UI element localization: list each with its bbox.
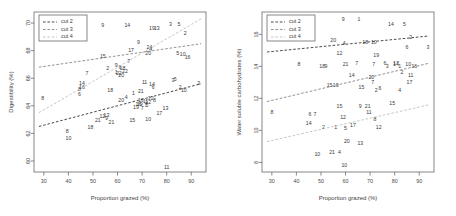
- scatter-figure: 60626466687030405060708090Proportion gra…: [0, 0, 456, 216]
- data-point-label: 14: [124, 22, 130, 28]
- x-tick-label: 30: [41, 178, 47, 184]
- legend-item-label: cut 4: [61, 33, 73, 39]
- data-point-label: 21: [95, 117, 101, 123]
- regression-line: [267, 63, 429, 101]
- data-point-label: 8: [270, 109, 273, 115]
- data-point-label: 5: [174, 76, 177, 82]
- x-tick-label: 30: [269, 178, 275, 184]
- data-point-label: 2: [106, 65, 109, 71]
- data-point-label: 7: [372, 61, 375, 67]
- data-point-label: 14: [306, 120, 312, 126]
- regression-line: [267, 105, 429, 142]
- data-point-label: 2: [375, 87, 378, 93]
- y-tick-label: 12: [253, 95, 259, 101]
- panel-left-canvas: 60626466687030405060708090Proportion gra…: [0, 0, 228, 216]
- data-point-label: 9: [359, 103, 362, 109]
- data-point-label: 21: [365, 103, 371, 109]
- data-point-label: 18: [88, 124, 94, 130]
- y-tick-label: 16: [253, 31, 259, 37]
- y-tick-label: 68: [25, 48, 31, 54]
- data-point-label: 4: [338, 149, 341, 155]
- data-point-label: 9: [115, 62, 118, 68]
- data-point-label: 16: [79, 84, 85, 90]
- legend-item-label: cut 2: [289, 18, 301, 24]
- x-axis-title: Proportion grazed (%): [319, 195, 378, 201]
- legend-item-label: cut 3: [61, 26, 73, 32]
- data-point-label: 18: [362, 39, 368, 45]
- data-point-label: 3: [197, 80, 200, 86]
- data-point-label: 13: [357, 140, 363, 146]
- data-point-label: 5: [403, 21, 406, 27]
- data-point-label: 7: [144, 102, 147, 108]
- data-point-label: 1: [398, 63, 401, 69]
- data-point-label: 17: [128, 47, 134, 53]
- data-point-label: 15: [389, 100, 395, 106]
- y-tick-label: 66: [25, 75, 31, 81]
- data-point-label: 20: [344, 138, 350, 144]
- x-tick-label: 50: [318, 178, 324, 184]
- x-tick-label: 60: [115, 178, 121, 184]
- data-point-label: 20: [330, 37, 336, 43]
- data-point-label: 13: [154, 25, 160, 31]
- y-tick-label: 62: [25, 130, 31, 136]
- data-point-label: 15: [337, 103, 343, 109]
- y-tick-label: 14: [253, 63, 259, 69]
- data-point-label: 16: [185, 54, 191, 60]
- data-point-label: 12: [340, 114, 346, 120]
- data-point-label: 6: [78, 91, 81, 97]
- data-point-label: 10: [66, 135, 72, 141]
- data-point-label: 6: [152, 84, 155, 90]
- data-point-label: 22: [116, 70, 122, 76]
- x-tick-label: 70: [367, 178, 373, 184]
- data-point-label: 10: [341, 162, 347, 168]
- x-tick-label: 60: [343, 178, 349, 184]
- x-tick-label: 80: [164, 178, 170, 184]
- data-point-label: 13: [163, 105, 169, 111]
- data-point-label: 10: [145, 116, 151, 122]
- data-point-label: 11: [366, 109, 371, 115]
- data-point-label: 19: [373, 52, 379, 58]
- y-tick-label: 8: [253, 161, 259, 164]
- data-point-label: 21: [329, 149, 335, 155]
- legend-item-label: cut 3: [289, 26, 301, 32]
- legend-item-label: cut 4: [289, 33, 301, 39]
- data-point-label: 7: [371, 79, 374, 85]
- data-point-label: 8: [66, 128, 69, 134]
- legend-item-label: cut 2: [61, 18, 73, 24]
- data-point-label: 17: [156, 110, 162, 116]
- data-point-label: 21: [109, 119, 115, 125]
- data-point-label: 12: [337, 50, 343, 56]
- data-point-label: 2: [184, 30, 187, 36]
- x-tick-label: 40: [65, 178, 71, 184]
- data-point-label: 18: [107, 87, 113, 93]
- y-tick-label: 60: [25, 158, 31, 164]
- data-point-label: 2: [409, 34, 412, 40]
- data-point-label: 15: [359, 84, 365, 90]
- data-point-label: 24: [147, 44, 153, 50]
- data-point-label: 3: [169, 21, 172, 27]
- data-point-label: 6: [406, 44, 409, 50]
- data-point-label: 9: [342, 16, 345, 22]
- y-tick-label: 70: [25, 20, 31, 26]
- x-tick-label: 40: [293, 178, 299, 184]
- x-tick-label: 50: [90, 178, 96, 184]
- data-point-label: 11: [408, 72, 413, 78]
- data-point-label: 12: [376, 124, 382, 130]
- data-point-label: 8: [297, 61, 300, 67]
- data-point-label: 7: [85, 70, 88, 76]
- data-point-label: 10: [405, 61, 411, 67]
- data-point-label: 6: [308, 111, 311, 117]
- data-point-label: 14: [349, 72, 355, 78]
- data-point-label: 15: [129, 117, 135, 123]
- data-point-label: 1: [358, 16, 361, 22]
- x-tick-label: 80: [392, 178, 398, 184]
- data-point-label: 7: [313, 111, 316, 117]
- x-tick-label: 90: [416, 178, 422, 184]
- data-point-label: 7: [355, 60, 358, 66]
- x-axis-title: Proportion grazed (%): [91, 195, 150, 201]
- data-point-label: 11: [164, 164, 169, 170]
- data-point-label: 5: [178, 21, 181, 27]
- y-axis-title: Digestibility (%): [8, 71, 14, 112]
- data-point-label: 5: [344, 125, 347, 131]
- data-point-label: 8: [153, 97, 156, 103]
